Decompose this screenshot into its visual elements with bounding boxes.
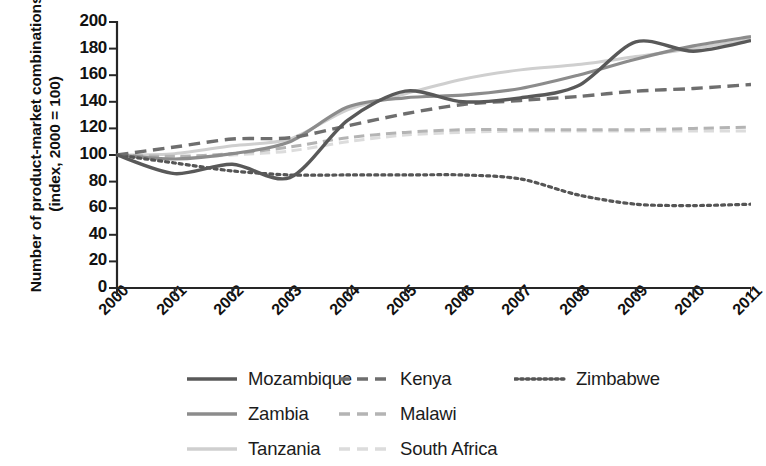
legend-swatch-solid xyxy=(186,407,238,421)
series-line-mozambique xyxy=(117,41,751,179)
series-line-south-africa xyxy=(117,131,751,158)
legend-swatch-solid xyxy=(186,372,238,386)
legend-item-tanzania[interactable]: Tanzania xyxy=(186,432,320,466)
legend-item-kenya[interactable]: Kenya xyxy=(338,362,451,396)
legend-label: Zambia xyxy=(248,403,309,425)
legend-item-zambia[interactable]: Zambia xyxy=(186,397,309,431)
legend-item-south-africa[interactable]: South Africa xyxy=(338,432,497,466)
legend-label: Mozambique xyxy=(248,368,352,390)
legend-label: Zimbabwe xyxy=(576,368,660,390)
legend-label: Malawi xyxy=(400,403,456,425)
legend-swatch-dashed xyxy=(338,442,390,456)
legend-swatch-dotted xyxy=(514,372,566,386)
legend-item-zimbabwe[interactable]: Zimbabwe xyxy=(514,362,660,396)
chart-legend: MozambiqueKenyaZimbabweZambiaMalawiTanza… xyxy=(186,362,746,466)
legend-item-malawi[interactable]: Malawi xyxy=(338,397,456,431)
legend-label: Tanzania xyxy=(248,438,320,460)
legend-swatch-dashed xyxy=(338,407,390,421)
series-line-zimbabwe xyxy=(117,155,751,206)
legend-swatch-dashed xyxy=(338,372,390,386)
legend-swatch-solid xyxy=(186,442,238,456)
legend-label: Kenya xyxy=(400,368,451,390)
legend-label: South Africa xyxy=(400,438,497,460)
legend-item-mozambique[interactable]: Mozambique xyxy=(186,362,352,396)
